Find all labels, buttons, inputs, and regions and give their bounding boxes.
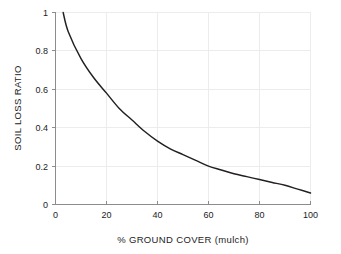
y-tick-label-0: 0: [43, 200, 48, 210]
y-tick-label-0.2: 0.2: [35, 162, 48, 172]
x-axis: 0 20 40 60 80 100: [53, 201, 318, 221]
y-tick-label-1: 1: [43, 8, 48, 18]
y-tick-label-0.4: 0.4: [35, 123, 48, 133]
x-tick-label-60: 60: [203, 210, 213, 220]
y-axis-title: SOIL LOSS RATIO: [12, 65, 23, 151]
soil-loss-ratio-curve: [63, 13, 310, 193]
horizontal-gridlines: [56, 13, 311, 167]
x-tick-label-80: 80: [254, 210, 264, 220]
x-tick-label-100: 100: [303, 210, 318, 220]
y-tick-label-0.6: 0.6: [35, 85, 48, 95]
x-tick-label-40: 40: [152, 210, 162, 220]
y-tick-label-0.8: 0.8: [35, 46, 48, 56]
vertical-gridlines: [107, 13, 311, 205]
y-axis: 1 0.8 0.6 0.4 0.2 0: [35, 8, 55, 210]
x-tick-label-20: 20: [101, 210, 111, 220]
chart-canvas: 1 0.8 0.6 0.4 0.2 0 0 20 40 60 80 100 % …: [0, 0, 341, 254]
gridlines: [56, 13, 311, 205]
x-axis-title: % GROUND COVER (mulch): [117, 234, 249, 245]
soil-loss-ratio-chart: 1 0.8 0.6 0.4 0.2 0 0 20 40 60 80 100 % …: [0, 0, 341, 254]
x-tick-label-0: 0: [53, 210, 58, 220]
